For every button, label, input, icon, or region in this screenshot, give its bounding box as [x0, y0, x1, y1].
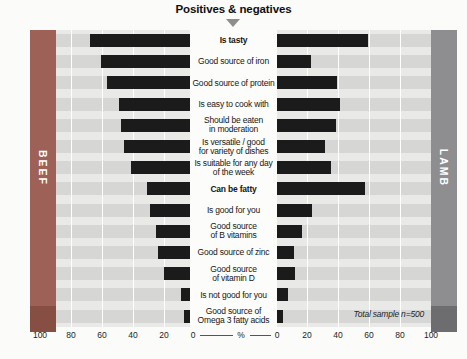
axis-tick-left: 60: [97, 330, 106, 340]
beef-bar: [107, 76, 190, 89]
gridline: [400, 30, 401, 327]
lamb-row: [277, 221, 431, 242]
category-label: Good source of B vitamins: [190, 221, 277, 242]
category-label: Good source of vitamin D: [190, 263, 277, 284]
beef-bar: [90, 34, 190, 47]
lamb-bar: [277, 119, 336, 132]
category-label: Is suitable for any day of the week: [190, 157, 277, 178]
axis-dash-left: [200, 335, 233, 336]
beef-bar: [184, 310, 190, 323]
axis-tick-left: 40: [128, 330, 137, 340]
category-label: Good source of zinc: [190, 242, 277, 263]
lamb-bar: [277, 161, 331, 174]
axis-tick-right: 40: [333, 330, 342, 340]
beef-band-label: BEEF: [37, 150, 49, 186]
beef-bar: [181, 288, 190, 301]
lamb-row: [277, 242, 431, 263]
beef-bar: [164, 267, 190, 280]
lamb-bar: [277, 98, 340, 111]
lamb-bars-area: [277, 30, 431, 327]
beef-row: [56, 136, 190, 157]
lamb-bar: [277, 182, 365, 195]
gridline: [71, 30, 72, 327]
lamb-corner-block: [431, 306, 457, 332]
down-triangle-icon: [226, 19, 240, 27]
beef-row: [56, 157, 190, 178]
beef-bars-area: [56, 30, 190, 327]
gridline: [338, 30, 339, 327]
beef-bar: [131, 161, 190, 174]
lamb-bar: [277, 225, 302, 238]
lamb-row: [277, 94, 431, 115]
beef-bar: [101, 55, 190, 68]
beef-row: [56, 284, 190, 305]
lamb-bar: [277, 76, 337, 89]
beef-bar: [156, 225, 190, 238]
axis-tick-right: 60: [364, 330, 373, 340]
lamb-row: [277, 157, 431, 178]
beef-band: BEEF: [30, 30, 56, 306]
beef-row: [56, 306, 190, 327]
gridline: [369, 30, 370, 327]
beef-bar: [119, 98, 190, 111]
chart-title: Positives & negatives: [0, 3, 467, 15]
axis-zero-right: 0: [275, 330, 280, 340]
gridline: [133, 30, 134, 327]
lamb-row: [277, 72, 431, 93]
axis-tick-right: 100: [424, 330, 438, 340]
axis-dash-right: [250, 335, 271, 336]
lamb-bar: [277, 55, 311, 68]
lamb-row: [277, 136, 431, 157]
category-label: Good source of protein: [190, 72, 277, 93]
axis-tick-left: 100: [33, 330, 47, 340]
beef-row: [56, 178, 190, 199]
lamb-row: [277, 30, 431, 51]
axis-tick-left: 80: [66, 330, 75, 340]
lamb-row: [277, 178, 431, 199]
lamb-row: [277, 263, 431, 284]
axis-zero-left: 0: [191, 330, 196, 340]
category-label: Is versatile / good for variety of dishe…: [190, 136, 277, 157]
category-label: Good source of iron: [190, 51, 277, 72]
axis-tick-right: 80: [395, 330, 404, 340]
chart-canvas: Positives & negatives BEEF LAMB Is tasty…: [0, 0, 467, 359]
lamb-bar: [277, 246, 294, 259]
lamb-row: [277, 200, 431, 221]
lamb-band: LAMB: [431, 30, 457, 306]
axis-tick-right: 20: [302, 330, 311, 340]
lamb-row: [277, 51, 431, 72]
beef-bar: [150, 204, 190, 217]
beef-row: [56, 30, 190, 51]
category-label: Should be eaten in moderation: [190, 115, 277, 136]
beef-row: [56, 263, 190, 284]
beef-row: [56, 221, 190, 242]
beef-row: [56, 115, 190, 136]
beef-bar: [147, 182, 190, 195]
gridline: [102, 30, 103, 327]
beef-row: [56, 200, 190, 221]
beef-bar: [124, 140, 190, 153]
gridline: [164, 30, 165, 327]
lamb-bar: [277, 267, 295, 280]
percent-axis: 0 % 0 1008060402020406080100: [0, 330, 467, 344]
lamb-bar: [277, 288, 288, 301]
beef-row: [56, 94, 190, 115]
beef-corner-block: [30, 306, 56, 332]
category-labels-column: Is tastyGood source of ironGood source o…: [190, 30, 277, 327]
sample-note: Total sample n=500: [277, 309, 424, 319]
lamb-row: [277, 284, 431, 305]
axis-tick-left: 20: [159, 330, 168, 340]
gridline: [307, 30, 308, 327]
category-label: Can be fatty: [190, 178, 277, 199]
lamb-bar: [277, 34, 368, 47]
category-label: Is tasty: [190, 30, 277, 51]
beef-bar: [158, 246, 190, 259]
beef-row: [56, 242, 190, 263]
category-label: Is not good for you: [190, 284, 277, 305]
category-label: Good source of Omega 3 fatty acids: [190, 306, 277, 327]
category-label: Is easy to cook with: [190, 94, 277, 115]
lamb-row: [277, 115, 431, 136]
beef-row: [56, 51, 190, 72]
lamb-bar: [277, 204, 312, 217]
beef-row: [56, 72, 190, 93]
